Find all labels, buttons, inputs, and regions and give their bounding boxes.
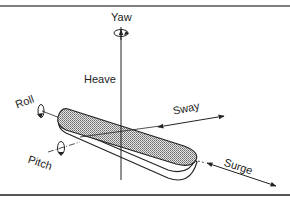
- surge-axis-dash: [198, 161, 206, 163]
- yaw-label: Yaw: [111, 12, 132, 23]
- ship-motion-diagram: Yaw Heave Roll Pitch Sway Surge: [0, 0, 290, 198]
- roll-axis-line: [42, 111, 60, 118]
- yaw-rotation-icon: [114, 27, 129, 40]
- sway-arrow: [158, 116, 224, 127]
- heave-label: Heave: [84, 74, 116, 85]
